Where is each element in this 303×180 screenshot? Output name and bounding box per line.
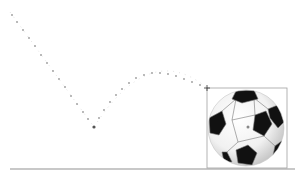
anchor-crosshair-icon[interactable]	[204, 85, 210, 91]
soccer-ball[interactable]	[208, 90, 284, 166]
canvas-stage: Bouncing soccer ball motion path	[0, 0, 303, 180]
motion-path[interactable]	[10, 12, 207, 127]
scene-svg	[0, 0, 303, 180]
bounce-keyframe-marker[interactable]	[92, 125, 95, 128]
